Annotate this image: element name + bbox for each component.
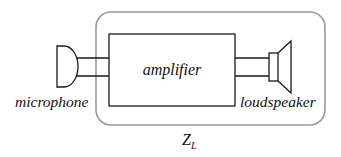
- microphone-label: microphone: [15, 93, 89, 110]
- impedance-label: ZL: [182, 131, 197, 151]
- loudspeaker-icon: [235, 41, 291, 93]
- microphone-icon: [57, 46, 109, 87]
- amplifier-label: amplifier: [143, 61, 202, 79]
- loudspeaker-label: loudspeaker: [240, 93, 317, 110]
- impedance-subscript: L: [190, 140, 197, 151]
- diagram-canvas: amplifier microphone loudspeaker ZL: [0, 0, 341, 157]
